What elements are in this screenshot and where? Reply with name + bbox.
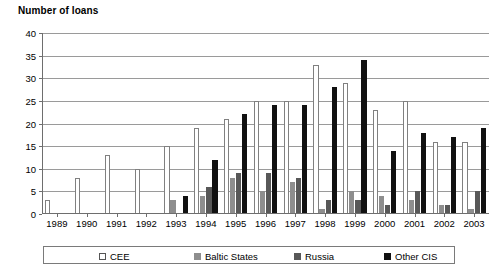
x-tick-label-1990: 1990 (76, 218, 97, 229)
x-tick-label-2003: 2003 (464, 218, 485, 229)
legend-label: Other CIS (395, 251, 437, 262)
x-tick-mark-1991 (117, 214, 118, 217)
x-tick-label-1996: 1996 (255, 218, 276, 229)
x-tick-label-2002: 2002 (434, 218, 455, 229)
plot-area (42, 33, 489, 214)
legend-item-other-cis[interactable]: Other CIS (384, 250, 437, 262)
y-tick-mark-25 (39, 101, 42, 102)
legend-item-russia[interactable]: Russia (294, 250, 334, 262)
y-tick-label-40: 40 (2, 29, 36, 38)
legend-item-baltic-states[interactable]: Baltic States (194, 250, 258, 262)
x-tick-mark-2001 (415, 214, 416, 217)
chart-legend: CEEBaltic StatesRussiaOther CIS (43, 246, 455, 264)
x-tick-mark-1997 (295, 214, 296, 217)
y-tick-label-0: 0 (2, 210, 36, 219)
legend-label: CEE (110, 251, 130, 262)
legend-swatch-cis (384, 253, 391, 260)
y-tick-label-30: 30 (2, 74, 36, 83)
x-tick-mark-1993 (176, 214, 177, 217)
x-tick-mark-2003 (474, 214, 475, 217)
x-tick-label-1994: 1994 (195, 218, 216, 229)
y-tick-mark-30 (39, 78, 42, 79)
legend-swatch-cee (99, 253, 106, 260)
y-tick-label-25: 25 (2, 96, 36, 105)
x-tick-mark-1998 (325, 214, 326, 217)
y-tick-label-5: 5 (2, 187, 36, 196)
y-tick-mark-35 (39, 56, 42, 57)
x-tick-mark-2002 (444, 214, 445, 217)
x-tick-label-1995: 1995 (225, 218, 246, 229)
x-tick-label-1989: 1989 (46, 218, 67, 229)
x-tick-mark-1989 (57, 214, 58, 217)
y-tick-mark-20 (39, 124, 42, 125)
x-tick-label-1993: 1993 (166, 218, 187, 229)
x-tick-label-1997: 1997 (285, 218, 306, 229)
legend-item-cee[interactable]: CEE (99, 250, 130, 262)
x-tick-label-1999: 1999 (344, 218, 365, 229)
x-tick-label-2001: 2001 (404, 218, 425, 229)
x-tick-mark-1999 (355, 214, 356, 217)
y-tick-label-20: 20 (2, 119, 36, 128)
y-tick-mark-10 (39, 169, 42, 170)
x-tick-label-1992: 1992 (136, 218, 157, 229)
y-tick-label-35: 35 (2, 51, 36, 60)
chart-title: Number of loans (18, 5, 98, 16)
x-tick-mark-1995 (236, 214, 237, 217)
y-tick-label-10: 10 (2, 164, 36, 173)
plot-frame (42, 33, 489, 214)
x-tick-mark-1992 (146, 214, 147, 217)
x-tick-mark-2000 (385, 214, 386, 217)
x-tick-mark-1994 (206, 214, 207, 217)
y-tick-mark-15 (39, 146, 42, 147)
legend-label: Baltic States (205, 251, 258, 262)
y-tick-label-15: 15 (2, 142, 36, 151)
x-tick-mark-1996 (266, 214, 267, 217)
x-tick-label-2000: 2000 (374, 218, 395, 229)
legend-label: Russia (305, 251, 334, 262)
y-tick-mark-5 (39, 191, 42, 192)
legend-swatch-baltic (194, 253, 201, 260)
legend-swatch-russia (294, 253, 301, 260)
x-tick-mark-1990 (87, 214, 88, 217)
x-axis: 1989199019911992199319941995199619971998… (42, 214, 489, 234)
x-tick-label-1998: 1998 (315, 218, 336, 229)
x-tick-label-1991: 1991 (106, 218, 127, 229)
y-tick-mark-40 (39, 33, 42, 34)
